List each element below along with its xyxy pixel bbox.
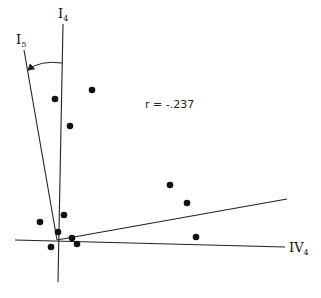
data-point (167, 182, 174, 189)
axis-line-rotated (57, 199, 287, 240)
axis-line-i5 (24, 50, 57, 240)
correlation-annotation: r = -.237 (145, 98, 194, 111)
data-point (193, 234, 200, 241)
data-point (55, 229, 62, 236)
axis-label-iv4: IV4 (289, 240, 309, 257)
axis-line-iv4 (15, 240, 285, 247)
data-point (48, 244, 55, 251)
axis-label-i5: I5 (16, 32, 26, 49)
data-point (74, 241, 81, 248)
data-point (184, 200, 191, 207)
rotation-arc (28, 62, 62, 70)
scatter-plot: I4 I5 IV4 r = -.237 (0, 0, 321, 298)
data-point (69, 235, 76, 242)
data-point (37, 219, 44, 226)
axis-label-i4: I4 (58, 6, 68, 23)
data-point (67, 123, 74, 130)
data-point (61, 212, 68, 219)
data-point (89, 87, 96, 94)
data-point (52, 96, 59, 103)
